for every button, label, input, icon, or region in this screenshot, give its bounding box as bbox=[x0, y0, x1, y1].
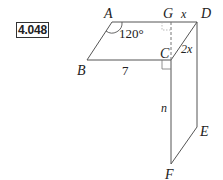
point-label-F: F bbox=[164, 167, 174, 180]
side-CF-measure: n bbox=[161, 101, 167, 115]
side-CD-measure: 2x bbox=[181, 42, 193, 56]
geometry-diagram: A G D B C E F 120° 7 x 2x n bbox=[0, 0, 223, 180]
point-label-B: B bbox=[77, 63, 86, 78]
point-label-D: D bbox=[200, 6, 211, 21]
point-label-C: C bbox=[160, 46, 170, 61]
point-label-G: G bbox=[163, 6, 173, 21]
point-label-E: E bbox=[199, 124, 209, 139]
angle-A-measure: 120° bbox=[119, 26, 144, 41]
point-label-A: A bbox=[103, 6, 113, 21]
side-BC-measure: 7 bbox=[122, 63, 129, 78]
right-angle-mark-C bbox=[162, 60, 171, 69]
segment-AB bbox=[87, 22, 112, 60]
side-GD-measure: x bbox=[180, 7, 187, 21]
right-angle-mark-G bbox=[162, 22, 171, 30]
segment-EF bbox=[171, 127, 197, 164]
